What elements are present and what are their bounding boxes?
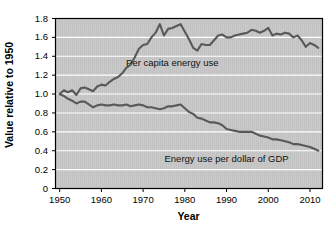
chart-figure: Value relative to 1950 00.20.40.60.81.01…	[0, 0, 336, 237]
annotation-label: Per capita energy use	[126, 57, 218, 68]
plot-area: Per capita energy useEnergy use per doll…	[0, 0, 336, 237]
x-axis-title: Year	[55, 210, 322, 222]
annotation-label: Energy use per dollar of GDP	[165, 153, 289, 164]
